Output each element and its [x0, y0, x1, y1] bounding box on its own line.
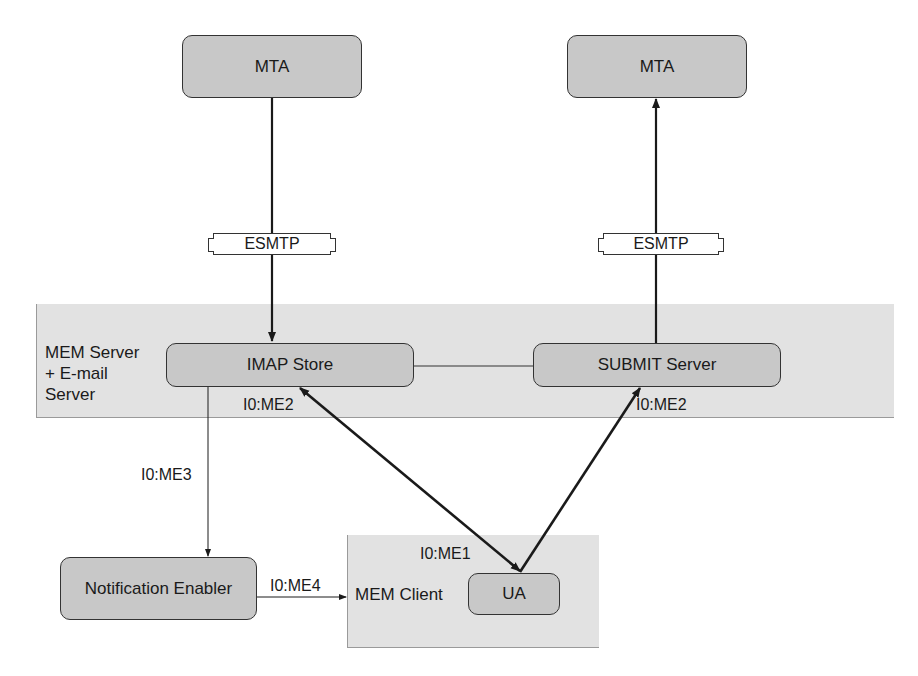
imap-store-node[interactable]: IMAP Store [166, 343, 414, 387]
edge-ua-to-submit [520, 388, 640, 572]
submit-server-node[interactable]: SUBMIT Server [533, 343, 781, 387]
submit-me2-label: I0:ME2 [636, 396, 687, 414]
mta-left-node[interactable]: MTA [182, 35, 362, 98]
mta-right-node[interactable]: MTA [567, 35, 747, 98]
notification-enabler-node[interactable]: Notification Enabler [60, 557, 257, 620]
me1-label: I0:ME1 [420, 545, 471, 563]
esmtp-right-badge: ESMTP [603, 233, 719, 255]
me4-label: I0:ME4 [270, 577, 321, 595]
edge-ua-imap [300, 388, 520, 571]
esmtp-left-badge: ESMTP [213, 233, 331, 255]
ua-node[interactable]: UA [468, 573, 560, 615]
me3-label: I0:ME3 [141, 466, 192, 484]
imap-me2-label: I0:ME2 [243, 396, 294, 414]
